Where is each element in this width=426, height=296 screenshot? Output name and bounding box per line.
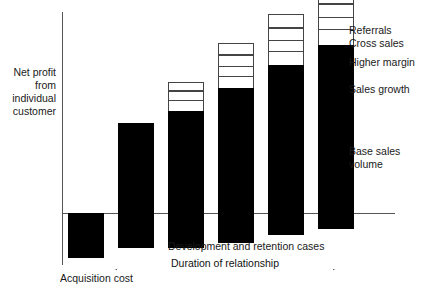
- bar-2-below-zero-extension: [118, 213, 154, 248]
- bar-2-segment-base-sales-volume: [118, 123, 154, 213]
- bar-5-segment-referrals: [268, 14, 304, 28]
- bar-5-segment-cross-sales: [268, 28, 304, 40]
- bar-5-below-zero-extension: [268, 213, 304, 235]
- bar-3: [168, 82, 204, 213]
- bar-6-segment-referrals: [318, 0, 354, 4]
- bar-3-segment-base-sales-volume: [168, 111, 204, 213]
- y-axis-label: Net profit from individual customer: [0, 66, 56, 118]
- y-axis-label-line-2: from: [0, 79, 56, 92]
- legend-item-base-sales-volume-line-2: volume: [349, 158, 383, 171]
- duration-of-relationship-arrow: Duration of relationship: [110, 258, 340, 268]
- bar-5-segment-sales-growth: [268, 51, 304, 65]
- bar-3-segment-sales-growth: [168, 100, 204, 111]
- acquisition-cost-label: Acquisition cost: [60, 272, 133, 285]
- legend-item-sales-growth: Sales growth: [349, 83, 410, 96]
- legend-item-referrals: Referrals: [349, 24, 392, 37]
- bar-3-segment-cross-sales: [168, 82, 204, 91]
- bar-3-segment-higher-margin: [168, 91, 204, 100]
- bar-4-below-zero-extension: [218, 213, 254, 243]
- bar-1: [68, 213, 104, 258]
- bar-4-segment-referrals: [218, 43, 254, 55]
- bar-2: [118, 123, 154, 213]
- bar-4: [218, 43, 254, 213]
- bar-4-segment-base-sales-volume: [218, 88, 254, 213]
- bar-6-below-zero-fill: [318, 213, 354, 229]
- bar-5-segment-base-sales-volume: [268, 65, 304, 213]
- y-axis-label-line-4: customer: [0, 105, 56, 118]
- bar-4-segment-higher-margin: [218, 66, 254, 76]
- y-axis-line: [62, 12, 63, 265]
- legend-item-base-sales-volume-line-1: Base sales: [349, 145, 400, 158]
- bar-6-below-zero-extension: [318, 213, 354, 229]
- bar-2-below-zero-fill: [118, 213, 154, 248]
- bar-4-below-zero-fill: [218, 213, 254, 243]
- bar-4-segment-cross-sales: [218, 55, 254, 66]
- bar-5: [268, 14, 304, 213]
- y-axis-label-line-3: individual: [0, 92, 56, 105]
- bar-1-segment-acquisition-cost: [68, 213, 104, 258]
- development-cases-label: Development and retention cases: [168, 240, 324, 253]
- y-axis-label-line-1: Net profit: [0, 66, 56, 79]
- legend-item-higher-margin: Higher margin: [349, 56, 415, 69]
- legend-item-cross-sales: Cross sales: [349, 37, 404, 50]
- customer-profitability-chart: Net profit from individual customer Refe…: [0, 0, 426, 296]
- bar-6-segment-base-sales-volume: [318, 45, 354, 213]
- bar-6-segment-cross-sales: [318, 4, 354, 17]
- duration-of-relationship-label: Duration of relationship: [110, 258, 340, 269]
- bar-5-segment-higher-margin: [268, 40, 304, 51]
- bar-4-segment-sales-growth: [218, 76, 254, 88]
- bar-5-below-zero-fill: [268, 213, 304, 235]
